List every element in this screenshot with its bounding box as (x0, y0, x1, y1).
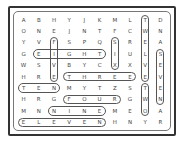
grid-cell[interactable]: K (92, 14, 107, 25)
grid-cell[interactable]: N (31, 105, 46, 116)
grid-cell[interactable]: G (46, 94, 61, 105)
grid-cell[interactable]: E (46, 25, 61, 36)
found-word-highlight (63, 95, 121, 104)
grid-cell[interactable]: J (62, 25, 77, 36)
grid-cell[interactable]: R (31, 71, 46, 82)
grid-cell[interactable]: H (16, 71, 31, 82)
grid-cell[interactable]: R (31, 94, 46, 105)
found-word-highlight (50, 37, 58, 82)
grid-cell[interactable]: Y (77, 60, 92, 71)
grid-cell[interactable]: M (62, 82, 77, 93)
grid-cell[interactable]: E (122, 105, 137, 116)
letter-grid: ABHYJKMLTDONEJNTFCWNYVFSPQSREAGEIGHTIULS… (16, 14, 168, 128)
found-word-highlight (33, 49, 106, 58)
grid-cell[interactable]: N (153, 25, 168, 36)
grid-cell[interactable]: S (62, 37, 77, 48)
found-word-highlight (18, 83, 61, 92)
grid-cell[interactable]: B (62, 60, 77, 71)
grid-cell[interactable]: Y (138, 117, 153, 128)
grid-cell[interactable]: S (31, 60, 46, 71)
grid-cell[interactable]: Q (92, 37, 107, 48)
grid-cell[interactable]: A (16, 14, 31, 25)
grid-cell[interactable]: B (31, 14, 46, 25)
grid-cell[interactable]: H (107, 117, 122, 128)
grid-cell[interactable]: D (153, 14, 168, 25)
found-word-highlight (18, 118, 106, 127)
grid-cell[interactable]: S (122, 82, 137, 93)
found-word-highlight (141, 83, 149, 116)
grid-cell[interactable]: H (46, 14, 61, 25)
grid-cell[interactable]: C (122, 25, 137, 36)
grid-cell[interactable]: M (107, 105, 122, 116)
grid-cell[interactable]: G (16, 48, 31, 59)
grid-cell[interactable]: M (16, 105, 31, 116)
grid-cell[interactable]: C (92, 60, 107, 71)
grid-cell[interactable]: N (31, 25, 46, 36)
found-word-highlight (111, 37, 119, 70)
grid-cell[interactable]: V (31, 37, 46, 48)
grid-cell[interactable]: H (16, 94, 31, 105)
grid-cell[interactable]: T (92, 82, 107, 93)
grid-cell[interactable]: F (107, 25, 122, 36)
grid-cell[interactable]: R (122, 37, 137, 48)
grid-cell[interactable]: O (16, 25, 31, 36)
grid-cell[interactable]: Y (77, 82, 92, 93)
grid-cell[interactable]: N (122, 117, 137, 128)
grid-cell[interactable]: T (92, 25, 107, 36)
grid-cell[interactable]: R (153, 117, 168, 128)
grid-cell[interactable]: M (107, 14, 122, 25)
found-word-highlight (156, 49, 164, 105)
grid-cell[interactable]: A (153, 37, 168, 48)
grid-cell[interactable]: Y (16, 37, 31, 48)
grid-cell[interactable]: W (16, 60, 31, 71)
grid-cell[interactable]: Z (107, 82, 122, 93)
found-word-highlight (63, 72, 136, 81)
grid-cell[interactable]: A (153, 105, 168, 116)
grid-cell[interactable]: Y (62, 14, 77, 25)
grid-cell[interactable]: U (122, 48, 137, 59)
grid-cell[interactable]: L (122, 14, 137, 25)
found-word-highlight (141, 15, 149, 82)
found-word-highlight (48, 106, 106, 115)
grid-cell[interactable]: G (122, 94, 137, 105)
grid-cell[interactable]: J (77, 14, 92, 25)
grid-cell[interactable]: N (77, 25, 92, 36)
grid-cell[interactable]: P (77, 37, 92, 48)
grid-cell[interactable]: X (122, 60, 137, 71)
